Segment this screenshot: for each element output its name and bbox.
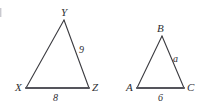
segment-xy — [26, 20, 64, 88]
vertex-label-b: B — [157, 23, 164, 34]
side-length-ac: 6 — [158, 93, 163, 103]
vertex-label-x: X — [15, 82, 22, 93]
vertex-label-c: C — [187, 82, 194, 93]
edge-artifact-mark — [0, 8, 1, 17]
vertex-label-y: Y — [61, 7, 67, 18]
similar-triangles-figure: Y X Z 9 8 B A C a 6 — [0, 0, 203, 106]
side-length-yz: 9 — [79, 45, 84, 55]
vertex-label-a: A — [126, 82, 133, 93]
side-length-bc: a — [173, 54, 178, 64]
segment-ab — [137, 36, 162, 88]
side-length-xz: 8 — [53, 93, 58, 103]
segment-yz — [64, 20, 89, 88]
vertex-label-z: Z — [92, 82, 98, 93]
